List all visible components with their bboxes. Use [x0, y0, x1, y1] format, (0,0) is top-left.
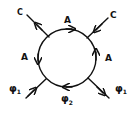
- label-phi2-bottom: φ2: [61, 93, 73, 106]
- label-A-left: A: [21, 52, 28, 62]
- external-line-bottom-right: [88, 78, 109, 98]
- label-phi1-left: φ1: [9, 83, 21, 95]
- label-A-top: A: [64, 15, 71, 25]
- label-C-top-left: C: [17, 8, 23, 17]
- label-C-top-right: C: [110, 10, 117, 20]
- external-line-top-left: [27, 15, 49, 37]
- label-phi1-right: φ1: [115, 83, 127, 95]
- label-A-right: A: [105, 53, 112, 63]
- external-line-top-right: [87, 18, 108, 38]
- external-line-bottom-left: [26, 79, 46, 98]
- feynman-diagram: A A A C C φ1 φ1 φ2: [0, 0, 135, 115]
